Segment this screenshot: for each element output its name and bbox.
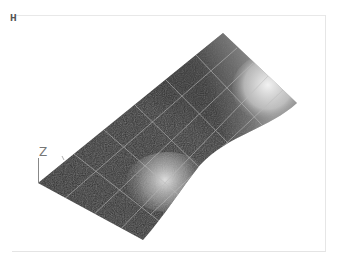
surface-mesh [0, 0, 344, 263]
z-axis-label: Z [39, 146, 47, 158]
3d-viewport[interactable]: H [0, 0, 344, 263]
surface-render[interactable] [0, 0, 344, 263]
